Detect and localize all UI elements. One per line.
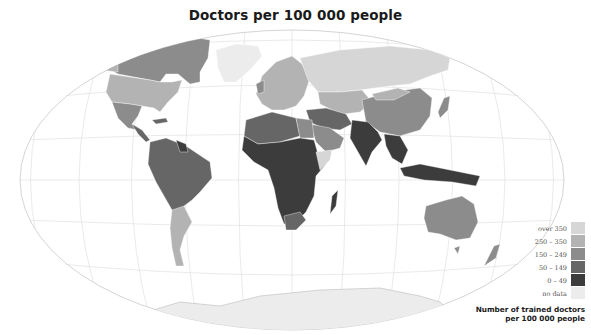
legend-swatch xyxy=(571,235,585,247)
legend-item-0-49: 0 – 49 xyxy=(455,274,585,287)
legend-item-250-350: 250 – 350 xyxy=(455,235,585,248)
legend-label: 0 – 49 xyxy=(547,277,567,285)
legend-label: over 350 xyxy=(538,225,567,233)
legend-caption-line-1: Number of trained doctors xyxy=(476,305,585,314)
legend-caption-line-2: per 100 000 people xyxy=(476,314,585,323)
legend-label: 250 – 350 xyxy=(535,238,567,246)
legend-caption: Number of trained doctors per 100 000 pe… xyxy=(476,305,585,323)
legend-item-150-249: 150 – 249 xyxy=(455,248,585,261)
legend-swatch xyxy=(571,274,585,286)
legend-swatch xyxy=(571,287,585,299)
legend-swatch xyxy=(571,222,585,234)
legend-label: 50 – 149 xyxy=(539,264,567,272)
legend-swatch xyxy=(571,248,585,260)
legend-label: 150 – 249 xyxy=(535,251,567,259)
legend-item-over-350: over 350 xyxy=(455,222,585,235)
legend-item-no-data: no data xyxy=(455,287,585,300)
legend-item-50-149: 50 – 149 xyxy=(455,261,585,274)
legend-label: no data xyxy=(542,290,567,298)
legend: over 350 250 – 350 150 – 249 50 – 149 0 … xyxy=(455,222,585,300)
legend-swatch xyxy=(571,261,585,273)
